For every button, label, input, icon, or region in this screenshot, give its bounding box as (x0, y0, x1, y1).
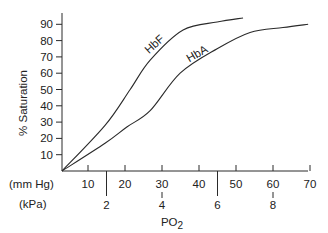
x-axis-title: PO2 (161, 216, 184, 231)
x-tick-label-mmhg: 30 (156, 178, 169, 190)
curve-hba (62, 24, 308, 171)
oxygen-dissociation-chart: 102030405060708090 10203040506070 2468 H… (0, 0, 328, 233)
y-tick-label: 30 (40, 116, 53, 128)
y-ticks: 102030405060708090 (40, 18, 62, 160)
y-tick-label: 20 (40, 132, 53, 144)
y-axis-title: % Saturation (17, 70, 29, 136)
x-ticks-kpa: 2468 (103, 171, 276, 211)
unit-kpa-label: (kPa) (19, 198, 47, 210)
x-tick-label-mmhg: 40 (193, 178, 206, 190)
x-ticks-mmhg: 10203040506070 (82, 165, 317, 190)
y-tick-label: 70 (40, 51, 53, 63)
y-tick-label: 10 (40, 149, 53, 161)
y-tick-label: 90 (40, 18, 53, 30)
x-tick-label-mmhg: 70 (304, 178, 317, 190)
x-tick-label-mmhg: 60 (267, 178, 280, 190)
y-tick-label: 60 (40, 67, 53, 79)
x-axis-title-main: PO (161, 216, 178, 228)
x-tick-label-kpa: 2 (103, 199, 109, 211)
y-tick-label: 50 (40, 84, 53, 96)
y-tick-label: 40 (40, 100, 53, 112)
x-tick-label-mmhg: 50 (230, 178, 243, 190)
x-axis-title-sub: 2 (178, 220, 184, 231)
y-tick-label: 80 (40, 35, 53, 47)
x-tick-label-kpa: 6 (214, 199, 220, 211)
x-tick-label-mmhg: 20 (119, 178, 132, 190)
x-tick-label-kpa: 4 (159, 199, 166, 211)
x-tick-label-mmhg: 10 (82, 178, 95, 190)
x-tick-label-kpa: 8 (270, 199, 276, 211)
label-hbf: HbF (142, 32, 166, 55)
unit-mmhg-label: (mm Hg) (9, 178, 54, 190)
